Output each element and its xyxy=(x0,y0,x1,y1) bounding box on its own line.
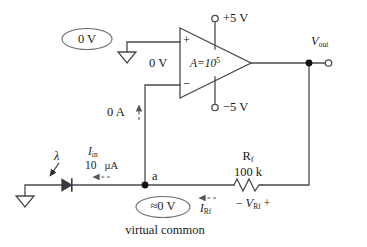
input-wire-left xyxy=(25,185,62,196)
circuit-diagram-figure: 0 V 0 V + − A=105 +5 V −5 V Vout 0 A λ I… xyxy=(0,0,367,247)
output-terminal xyxy=(325,60,331,66)
light-ray-arrow xyxy=(50,163,59,176)
node-a-label: a xyxy=(152,170,158,183)
output-voltage-subscript: out xyxy=(319,40,329,49)
opamp-plus-pin-label: + xyxy=(183,34,190,47)
supply-positive-terminal xyxy=(212,15,218,21)
supply-negative-terminal xyxy=(212,104,218,110)
supply-positive-label: +5 V xyxy=(223,12,248,25)
resistor-voltage-plus-sign: + xyxy=(264,197,271,209)
supply-negative-label: −5 V xyxy=(223,101,248,114)
input-current-subscript: in xyxy=(92,150,98,159)
opamp-minus-pin-label: − xyxy=(183,78,190,91)
input-current-value: 10 xyxy=(85,159,97,171)
node-a-voltage-label: ≈0 V xyxy=(150,200,175,213)
feedback-current-label: IRf xyxy=(200,203,211,215)
resistor-voltage-symbol: V xyxy=(246,196,254,210)
photodiode-anode xyxy=(62,180,72,191)
inverting-input-wire xyxy=(145,85,180,185)
figure-caption: virtual common xyxy=(125,224,205,237)
resistor-name-subscript: f xyxy=(251,155,254,164)
feedback-current-subscript: Rf xyxy=(204,207,212,216)
callout-zero-volts-label: 0 V xyxy=(78,33,96,46)
feedback-resistor-symbol xyxy=(234,179,262,191)
output-voltage-label: Vout xyxy=(311,35,328,48)
resistor-voltage-minus-sign: − xyxy=(236,197,243,209)
light-wavelength-label: λ xyxy=(54,150,59,163)
opamp-gain-text: A=10 xyxy=(190,57,216,69)
resistor-voltage-subscript: Rf xyxy=(253,202,261,211)
resistor-value-label: 100 k xyxy=(234,166,262,179)
resistor-voltage-label: −VRf+ xyxy=(236,197,270,210)
ground-symbol-opamp xyxy=(118,52,136,63)
node-dot-output xyxy=(306,60,313,67)
node-dot-a xyxy=(142,182,149,189)
noninverting-input-wire xyxy=(127,42,180,52)
input-current-value-group: 10 µA xyxy=(85,160,118,172)
zero-amp-label: 0 A xyxy=(107,106,125,119)
resistor-name-label: Rf xyxy=(243,150,254,163)
noninverting-zero-volts-label: 0 V xyxy=(149,57,167,70)
output-voltage-symbol: V xyxy=(311,34,319,48)
opamp-gain-exponent: 5 xyxy=(216,56,220,65)
ground-symbol-input xyxy=(16,196,34,207)
opamp-gain-label: A=105 xyxy=(190,57,220,69)
feedback-wire-right xyxy=(262,63,309,185)
input-current-unit: µA xyxy=(104,160,118,171)
input-current-label: Iin xyxy=(88,146,98,158)
